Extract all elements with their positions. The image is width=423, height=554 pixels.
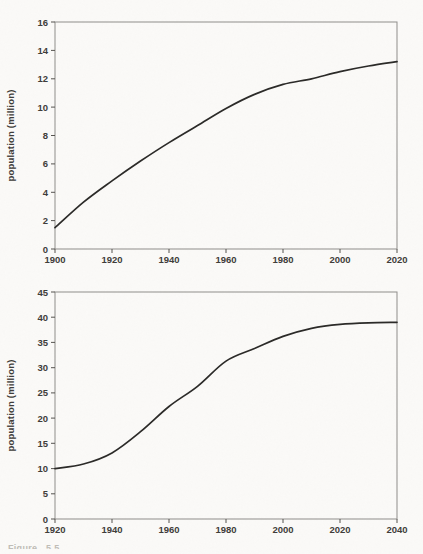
y-tick-label: 30	[37, 362, 48, 373]
y-tick-label: 6	[43, 158, 48, 169]
y-tick-label: 35	[37, 337, 48, 348]
top-population-chart: 0246810121416190019201940196019802000202…	[0, 0, 423, 270]
y-tick-label: 14	[37, 45, 48, 56]
population-curve	[55, 62, 397, 228]
y-tick-label: 0	[43, 514, 48, 525]
x-tick-label: 2020	[329, 524, 350, 535]
y-tick-label: 10	[37, 463, 48, 474]
y-tick-label: 8	[43, 130, 48, 141]
y-axis-title: population (million)	[5, 89, 16, 181]
y-tick-label: 2	[43, 215, 48, 226]
x-tick-label: 1980	[272, 254, 293, 265]
y-tick-label: 10	[37, 102, 48, 113]
x-tick-label: 1920	[101, 254, 122, 265]
x-tick-label: 2020	[386, 254, 407, 265]
y-tick-label: 25	[37, 387, 48, 398]
x-tick-label: 2000	[272, 524, 293, 535]
y-tick-label: 40	[37, 312, 48, 323]
y-axis-title: population (million)	[5, 359, 16, 451]
y-tick-label: 12	[37, 73, 48, 84]
x-tick-label: 1920	[44, 524, 65, 535]
figure-caption: Figure 5.5	[8, 544, 60, 549]
y-tick-label: 15	[37, 438, 48, 449]
population-curve	[55, 322, 397, 468]
plot-border	[55, 22, 397, 249]
x-tick-label: 1940	[158, 254, 179, 265]
scanned-figure-page: 0246810121416190019201940196019802000202…	[0, 0, 423, 554]
y-tick-label: 45	[37, 287, 48, 298]
x-tick-label: 1960	[158, 524, 179, 535]
y-tick-label: 4	[43, 187, 49, 198]
x-tick-label: 2040	[386, 524, 407, 535]
x-tick-label: 1940	[101, 524, 122, 535]
x-tick-label: 2000	[329, 254, 350, 265]
x-tick-label: 1980	[215, 524, 236, 535]
y-tick-label: 16	[37, 17, 48, 28]
y-tick-label: 5	[43, 488, 49, 499]
y-tick-label: 20	[37, 413, 48, 424]
x-tick-label: 1960	[215, 254, 236, 265]
bottom-population-chart: 0510152025303540451920194019601980200020…	[0, 270, 423, 540]
x-tick-label: 1900	[44, 254, 65, 265]
figure-caption-text: Figure 5.5	[8, 544, 60, 549]
y-tick-label: 0	[43, 244, 48, 255]
plot-border	[55, 292, 397, 519]
